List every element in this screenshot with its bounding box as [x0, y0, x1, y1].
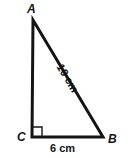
vertex-label-c: C	[17, 131, 26, 143]
side-length-label-base: 6 cm	[50, 143, 75, 154]
right-triangle-diagram: A C B 10 cm 6 cm	[0, 0, 135, 158]
vertex-label-a: A	[27, 3, 36, 15]
vertex-label-b: B	[108, 133, 117, 145]
